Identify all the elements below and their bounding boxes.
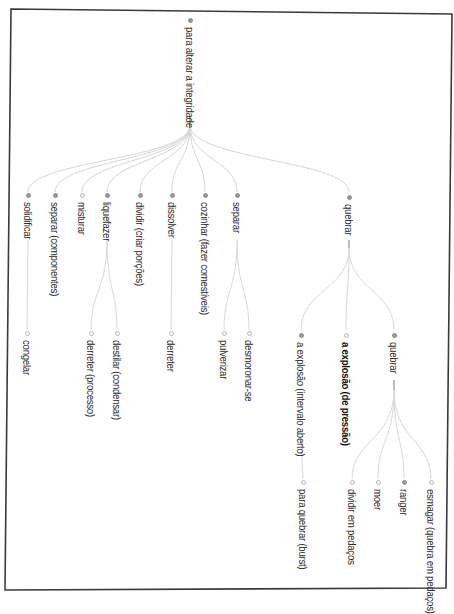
node-esmagar-icon[interactable] bbox=[429, 480, 434, 485]
node-congelar-icon[interactable] bbox=[25, 331, 30, 336]
node-cozinhar-icon[interactable] bbox=[203, 193, 208, 198]
root-links bbox=[28, 125, 349, 192]
node-dividir-pedacos-icon[interactable] bbox=[350, 480, 355, 485]
node-label-dividir-pedacos: dividir em pedaços bbox=[346, 489, 357, 565]
node-label-liquefazer: liquefazer bbox=[101, 202, 112, 241]
level2-links bbox=[301, 380, 431, 479]
node-label-dissolver: dissolver bbox=[166, 202, 177, 238]
node-misturar-icon[interactable] bbox=[80, 193, 85, 198]
node-label-moer: moer bbox=[372, 489, 383, 510]
node-label-cozinhar: cozinhar (fazer comestíveis) bbox=[199, 202, 210, 315]
node-dissolver-icon[interactable] bbox=[170, 193, 175, 198]
node-label-desmoronar: desmoronar-se bbox=[243, 340, 254, 401]
node-solidificar-icon[interactable] bbox=[26, 193, 31, 198]
node-label-derreter-processo: derreter (processo) bbox=[85, 340, 96, 417]
node-para-quebrar-icon[interactable] bbox=[301, 480, 306, 485]
node-label-derreter: derreter bbox=[165, 340, 176, 372]
node-label-pulverizar: pulverizar bbox=[218, 340, 229, 379]
node-pulverizar-icon[interactable] bbox=[222, 331, 227, 336]
node-label-misturar: misturar bbox=[76, 202, 87, 235]
node-label-explosao-intervalo: a explosão (intervalo aberto) bbox=[295, 342, 306, 456]
node-derreter-processo-icon[interactable] bbox=[89, 331, 94, 336]
node-dividir-icon[interactable] bbox=[138, 193, 143, 198]
node-label-separar: separar bbox=[231, 202, 242, 233]
root-node-icon[interactable] bbox=[188, 18, 193, 23]
node-moer-icon[interactable] bbox=[376, 480, 381, 485]
level1-links bbox=[27, 240, 394, 330]
root-label: para alterar a integridade bbox=[184, 27, 195, 128]
node-quebrar-icon[interactable] bbox=[347, 195, 352, 200]
page-border bbox=[5, 9, 452, 590]
node-label-solidificar: solidificar bbox=[22, 202, 33, 239]
node-destilar-icon[interactable] bbox=[115, 331, 120, 336]
node-label-explosao-pressao: a explosão (de pressão) bbox=[340, 342, 351, 446]
node-label-ranger: ranger bbox=[398, 489, 409, 515]
node-label-dividir: dividir (criar porções) bbox=[134, 202, 145, 286]
node-ranger-icon[interactable] bbox=[402, 480, 407, 485]
node-liquefazer-icon[interactable] bbox=[105, 193, 110, 198]
node-label-para-quebrar: para quebrar (burst) bbox=[297, 489, 308, 569]
node-explosao-intervalo-icon[interactable] bbox=[299, 333, 304, 338]
node-quebrar-sub-icon[interactable] bbox=[392, 333, 397, 338]
node-separar-componentes-icon[interactable] bbox=[53, 193, 58, 198]
node-label-destilar: destilar (condensar) bbox=[111, 340, 122, 420]
node-separar-icon[interactable] bbox=[235, 193, 240, 198]
node-derreter-icon[interactable] bbox=[169, 331, 174, 336]
node-label-quebrar: quebrar bbox=[343, 204, 354, 235]
node-desmoronar-icon[interactable] bbox=[247, 331, 252, 336]
node-label-congelar: congelar bbox=[21, 340, 32, 375]
node-label-quebrar-sub: quebrar bbox=[388, 342, 399, 373]
node-explosao-pressao-icon[interactable] bbox=[344, 333, 349, 338]
node-label-separar-componentes: separar (componentes) bbox=[49, 202, 60, 296]
node-label-esmagar: esmagar (quebra em pedaços) bbox=[425, 489, 436, 614]
